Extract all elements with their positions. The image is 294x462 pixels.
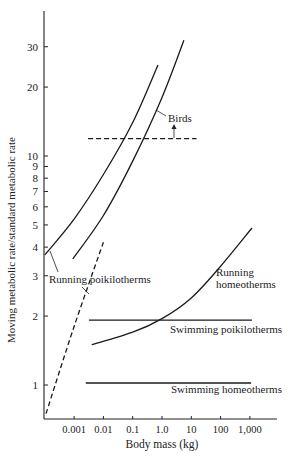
label-running-poikilotherms: Running poikilotherms: [49, 273, 151, 285]
y-tick-label: 30: [27, 41, 39, 53]
series-running-poikilotherms: [45, 65, 158, 255]
y-tick-label: 4: [33, 241, 39, 253]
y-tick-label: 20: [27, 81, 39, 93]
y-tick-label: 8: [33, 172, 39, 184]
chart: 123456789102030 0.0010.010.11.0101001,00…: [0, 0, 294, 462]
label-swimming-poikilotherms: Swimming poikilotherms: [170, 323, 282, 335]
y-tick-label: 10: [27, 150, 39, 162]
x-tick-label: 100: [213, 424, 229, 435]
x-tick-label: 0.1: [126, 424, 139, 435]
x-axis: 0.0010.010.11.0101001,000: [44, 416, 277, 435]
label-homeotherms: homeotherms: [216, 278, 276, 290]
x-axis-label: Body mass (kg): [126, 438, 199, 451]
series-birds: [73, 40, 184, 259]
x-tick-label: 1.0: [155, 424, 168, 435]
series-running-poikilotherms-insects: [46, 242, 103, 413]
label-running: Running: [216, 266, 254, 278]
y-tick-label: 9: [33, 160, 39, 172]
y-tick-label: 2: [33, 310, 39, 322]
y-tick-label: 3: [33, 270, 39, 282]
y-tick-label: 7: [33, 185, 39, 197]
x-tick-label: 0.01: [94, 424, 112, 435]
annotation-leaders: [50, 110, 177, 294]
label-birds: Birds: [168, 112, 192, 124]
label-swimming-homeotherms: Swimming homeotherms: [171, 383, 282, 395]
y-tick-label: 6: [33, 201, 39, 213]
y-tick-label: 5: [33, 219, 39, 231]
y-tick-label: 1: [33, 379, 39, 391]
plot-area: [45, 40, 252, 413]
x-tick-label: 1,000: [238, 424, 262, 435]
y-axis: 123456789102030: [27, 11, 48, 419]
x-tick-label: 10: [186, 424, 197, 435]
x-tick-label: 0.001: [62, 424, 86, 435]
y-axis-label: Moving metabolic rate/standard metabolic…: [5, 137, 17, 343]
